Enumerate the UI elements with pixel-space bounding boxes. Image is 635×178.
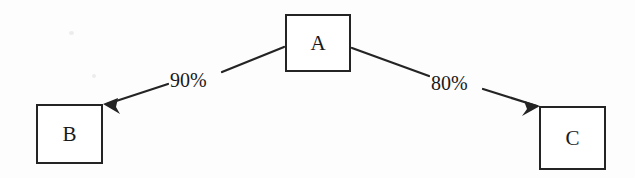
edge-a-to-b-segment-upper: [222, 47, 284, 72]
arrowhead-into-b: [103, 98, 120, 114]
diagram-canvas: A B C 90% 80%: [0, 0, 635, 178]
edge-label-a-to-b: 90%: [170, 70, 207, 90]
node-c[interactable]: C: [539, 106, 606, 170]
node-a[interactable]: A: [285, 14, 351, 72]
node-b-label: B: [62, 124, 76, 145]
edge-a-to-c-segment-upper: [352, 48, 429, 76]
node-b[interactable]: B: [36, 104, 103, 164]
node-a-label: A: [310, 33, 325, 54]
edge-label-a-to-c: 80%: [431, 73, 468, 93]
node-c-label: C: [565, 128, 579, 149]
